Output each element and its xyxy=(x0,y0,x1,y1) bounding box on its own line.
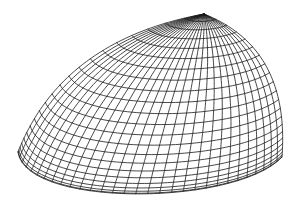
latitude-line xyxy=(19,150,282,192)
meridian-line xyxy=(18,14,204,152)
meridian-line xyxy=(204,14,277,162)
latitude-line xyxy=(39,111,281,145)
latitude-line xyxy=(52,94,278,125)
latitude-line xyxy=(45,102,280,135)
wireframe-surface xyxy=(0,0,299,212)
meridian-line xyxy=(183,14,204,191)
meridian-line xyxy=(61,14,204,185)
meridian-lines xyxy=(18,14,283,194)
wireframe-figure xyxy=(0,0,299,212)
